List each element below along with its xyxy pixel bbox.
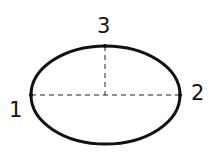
point-1-marker xyxy=(29,93,33,97)
point-2-label: 2 xyxy=(191,81,204,105)
point-3-label: 3 xyxy=(97,14,110,38)
ellipse-diagram: 1 2 3 xyxy=(0,0,221,157)
point-1-label: 1 xyxy=(9,98,22,122)
point-2-marker xyxy=(178,93,182,97)
point-3-marker xyxy=(103,44,107,48)
